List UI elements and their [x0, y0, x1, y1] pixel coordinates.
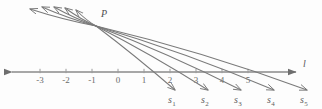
tick-label-neg3: -3: [36, 75, 44, 85]
point-p: P: [100, 8, 107, 19]
axis-tick-labels: -3-2-1012345: [36, 75, 251, 85]
axis-name-label: l: [303, 58, 306, 69]
geometry-figure: -3-2-1012345 l s1s2s3s4s5 P: [0, 0, 322, 109]
figure-canvas: -3-2-1012345 l s1s2s3s4s5 P: [0, 0, 322, 109]
ray-labels: s1s2s3s4s5: [168, 94, 308, 108]
ray-label-sub-s3: 3: [238, 100, 242, 108]
rays-up-left: [30, 7, 96, 26]
tick-label-neg2: -2: [62, 75, 70, 85]
ray-label-sub-s4: 4: [271, 100, 275, 108]
point-p-label: P: [100, 8, 107, 19]
tick-label-2: 2: [168, 75, 173, 85]
ray-label-sub-s5: 5: [304, 100, 308, 108]
ray-label-s5: s5: [300, 94, 308, 108]
ray-label-sub-s2: 2: [205, 100, 209, 108]
ray-label-s3: s3: [234, 94, 242, 108]
tick-label-0: 0: [116, 75, 121, 85]
ray-s2: [96, 26, 208, 90]
ray-label-s2: s2: [201, 94, 209, 108]
ray-label-sub-s1: 1: [172, 100, 176, 108]
rays-down-right: [96, 26, 307, 90]
tick-label-1: 1: [142, 75, 147, 85]
ray-label-s1: s1: [168, 94, 176, 108]
tick-label-neg1: -1: [88, 75, 96, 85]
ray-label-s4: s4: [267, 94, 275, 108]
